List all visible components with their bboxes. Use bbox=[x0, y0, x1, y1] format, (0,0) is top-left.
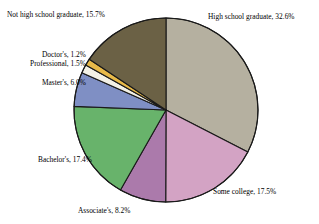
pie-label-not-high-school-graduate: Not high school graduate, 15.7% bbox=[7, 10, 105, 19]
pie-label-professional: Professional, 1.5% bbox=[3, 59, 86, 68]
pie-label-some-college: Some college, 17.5% bbox=[213, 187, 276, 196]
pie-slice-group bbox=[74, 18, 258, 202]
pie-label-high-school-graduate: High school graduate, 32.6% bbox=[208, 12, 295, 21]
pie-label-bachelors: Bachelor's, 17.4% bbox=[3, 155, 92, 164]
pie-label-masters: Master's, 6.0% bbox=[3, 78, 86, 87]
pie-chart: Not high school graduate, 15.7% High sch… bbox=[0, 0, 319, 224]
pie-label-doctors: Doctor's, 1.2% bbox=[3, 50, 86, 59]
pie-label-associates: Associate's, 8.2% bbox=[78, 206, 130, 215]
